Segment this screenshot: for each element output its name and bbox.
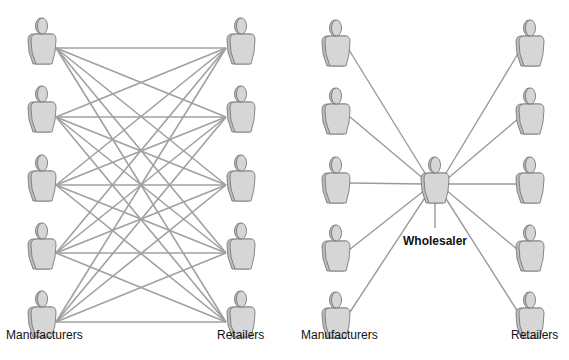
person-silhouette-icon: [28, 86, 56, 132]
right-manufacturers: [322, 20, 350, 338]
left-retailers: [227, 18, 255, 337]
wholesaler-node: [421, 157, 449, 203]
person-silhouette-icon: [227, 155, 255, 201]
right-retailers: [516, 20, 544, 338]
person-silhouette-icon: [28, 155, 56, 201]
wholesaler-label: Wholesaler: [403, 234, 467, 248]
left-retailers-label: Retailers: [217, 328, 264, 342]
person-silhouette-icon: [322, 88, 350, 134]
distribution-diagram: [0, 0, 569, 360]
left-manufacturers: [28, 18, 56, 337]
person-silhouette-icon: [322, 157, 350, 203]
person-silhouette-icon: [322, 20, 350, 66]
left-manufacturers-label: Manufacturers: [6, 328, 83, 342]
person-silhouette-icon: [28, 223, 56, 269]
person-silhouette-icon: [516, 20, 544, 66]
person-silhouette-icon: [227, 18, 255, 64]
person-silhouette-icon: [516, 157, 544, 203]
person-silhouette-icon: [227, 86, 255, 132]
person-silhouette-icon: [28, 18, 56, 64]
right-retailers-label: Retailers: [511, 328, 558, 342]
person-silhouette-icon: [227, 223, 255, 269]
right-manufacturers-label: Manufacturers: [301, 328, 378, 342]
person-silhouette-icon: [421, 157, 449, 203]
person-silhouette-icon: [322, 225, 350, 271]
person-silhouette-icon: [516, 88, 544, 134]
person-silhouette-icon: [516, 225, 544, 271]
left-panel-connections: [56, 48, 226, 322]
